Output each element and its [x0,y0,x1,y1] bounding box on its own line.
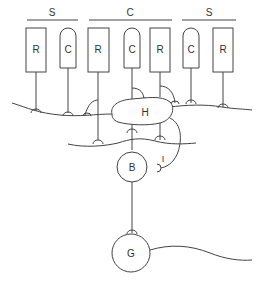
ganglion-cell-label: G [127,248,135,259]
horizontal-dendrite-upper [12,103,112,116]
rod-label: R [156,44,163,55]
synapse-terminal [93,140,103,144]
photoreceptor-rod-2: R [88,28,109,140]
retina-circuit-diagram: S C S R C R C R C R [0,0,261,282]
rod-label: R [219,44,226,55]
bipolar-cell-label: B [129,162,136,173]
horizontal-cell-label: H [141,107,148,118]
photoreceptor-rod-4: R [213,28,233,107]
horizontal-dendrite-upper-right [170,105,252,110]
cone-label: C [128,44,135,55]
photoreceptor-cone-3: C [183,28,199,103]
interplexiform-label: I [162,154,165,164]
photoreceptor-rod-3: R [150,28,170,97]
group-label: C [126,7,133,18]
group-center: C [89,7,172,20]
cone-label: C [64,44,71,55]
group-surround-right: S [182,7,236,20]
group-surround-left: S [27,7,78,20]
rod-label: R [32,44,39,55]
horizontal-cell: H [112,98,173,125]
bipolar-cell: B [117,152,147,182]
synapse-terminal [157,164,161,172]
ganglion-axon [150,246,252,260]
ganglion-cell: G [112,234,150,272]
rod-label: R [94,44,101,55]
photoreceptor-cone-1: C [60,28,76,113]
group-label: S [206,7,213,18]
photoreceptor-rod-1: R [26,28,46,111]
group-label: S [49,7,56,18]
cone-label: C [187,44,194,55]
